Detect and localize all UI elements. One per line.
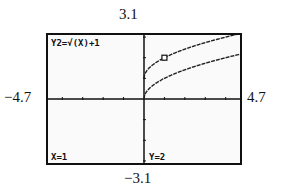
calculator-screen: Y2=√(X)+1 X=1 Y=2 <box>46 33 242 165</box>
curve-2 <box>144 35 240 78</box>
equation-label: Y2=√(X)+1 <box>51 39 100 48</box>
graph-plot <box>48 35 240 163</box>
cursor-x-readout: X=1 <box>51 153 67 162</box>
ymin-label: −3.1 <box>124 171 151 186</box>
ymax-label: 3.1 <box>119 7 138 22</box>
trace-cursor <box>162 55 167 60</box>
cursor-y-readout: Y=2 <box>149 153 165 162</box>
xmax-label: 4.7 <box>247 90 266 105</box>
xmin-label: −4.7 <box>4 90 31 105</box>
